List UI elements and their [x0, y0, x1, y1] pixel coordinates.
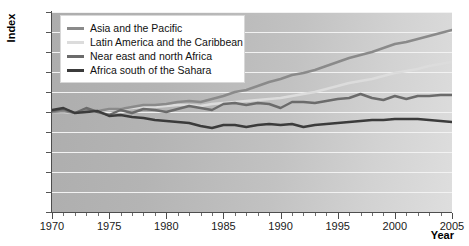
x-tick-minor	[235, 213, 236, 216]
x-tick-minor	[75, 213, 76, 216]
x-tick-minor	[201, 213, 202, 216]
y-axis-title: Index	[5, 0, 17, 58]
legend-item[interactable]: Latin America and the Caribbean	[67, 35, 238, 49]
x-tick-minor	[258, 213, 259, 216]
x-tick-label: 1990	[256, 220, 306, 232]
x-tick-minor	[372, 213, 373, 216]
y-tick-mark	[46, 12, 52, 13]
x-tick-minor	[189, 213, 190, 216]
legend-swatch-icon	[67, 27, 84, 30]
series-line	[52, 108, 452, 128]
x-tick-minor	[212, 213, 213, 216]
x-tick-minor	[429, 213, 430, 216]
legend-swatch-icon	[67, 69, 84, 72]
x-tick-minor	[155, 213, 156, 216]
legend-item[interactable]: Asia and the Pacific	[67, 21, 238, 35]
legend-swatch-icon	[67, 41, 84, 44]
y-tick-mark	[46, 92, 52, 93]
x-axis-title: Year	[431, 229, 454, 241]
x-tick-minor	[303, 213, 304, 216]
y-tick-mark	[46, 112, 52, 113]
x-tick-major	[452, 213, 453, 219]
x-tick-label: 1980	[141, 220, 191, 232]
x-tick-minor	[121, 213, 122, 216]
x-tick-minor	[292, 213, 293, 216]
x-tick-label: 1995	[313, 220, 363, 232]
x-tick-minor	[269, 213, 270, 216]
x-tick-minor	[383, 213, 384, 216]
x-tick-minor	[98, 213, 99, 216]
legend-label: Asia and the Pacific	[90, 21, 182, 35]
x-tick-major	[281, 213, 282, 219]
x-tick-minor	[418, 213, 419, 216]
legend-label: Latin America and the Caribbean	[90, 35, 243, 49]
legend-label: Near east and north Africa	[90, 49, 212, 63]
x-tick-minor	[86, 213, 87, 216]
y-tick-mark	[46, 152, 52, 153]
legend-item[interactable]: Africa south of the Sahara	[67, 63, 238, 77]
y-tick-mark	[46, 192, 52, 193]
legend-swatch-icon	[67, 55, 84, 58]
x-tick-minor	[361, 213, 362, 216]
y-tick-mark	[46, 172, 52, 173]
x-tick-minor	[406, 213, 407, 216]
x-tick-label: 1985	[198, 220, 248, 232]
x-tick-minor	[315, 213, 316, 216]
x-tick-minor	[441, 213, 442, 216]
x-tick-major	[166, 213, 167, 219]
x-tick-minor	[326, 213, 327, 216]
series-line	[52, 94, 452, 115]
x-tick-label: 2000	[370, 220, 420, 232]
x-tick-major	[52, 213, 53, 219]
x-tick-minor	[246, 213, 247, 216]
x-tick-major	[395, 213, 396, 219]
x-tick-minor	[178, 213, 179, 216]
x-tick-major	[338, 213, 339, 219]
x-axis-line	[51, 212, 452, 213]
y-tick-mark	[46, 52, 52, 53]
x-tick-minor	[143, 213, 144, 216]
legend-item[interactable]: Near east and north Africa	[67, 49, 238, 63]
x-tick-minor	[349, 213, 350, 216]
y-tick-mark	[46, 72, 52, 73]
x-tick-minor	[63, 213, 64, 216]
x-tick-label: 1970	[27, 220, 77, 232]
legend-label: Africa south of the Sahara	[90, 63, 211, 77]
x-tick-major	[223, 213, 224, 219]
x-tick-label: 1975	[84, 220, 134, 232]
chart-legend: Asia and the PacificLatin America and th…	[60, 15, 245, 83]
x-tick-major	[109, 213, 110, 219]
x-tick-minor	[132, 213, 133, 216]
y-tick-mark	[46, 32, 52, 33]
y-tick-mark	[46, 132, 52, 133]
